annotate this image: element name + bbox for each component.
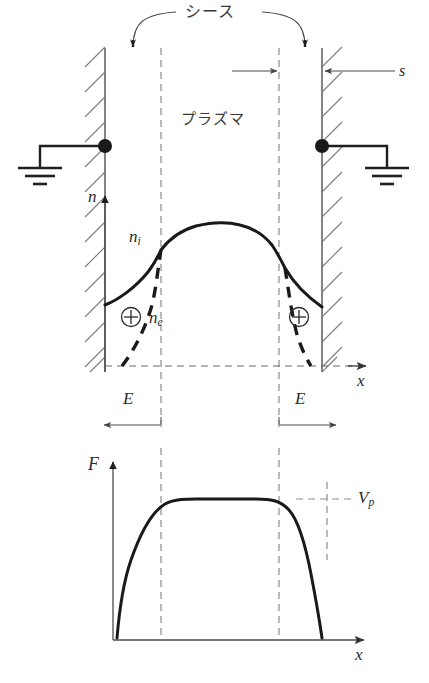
electric-field-right	[279, 417, 336, 425]
figure-canvas	[0, 0, 429, 683]
sheath-label: シース	[185, 4, 235, 20]
plasma-potential-subscript: p	[368, 496, 374, 509]
right-ground-connection	[315, 139, 409, 184]
electron-density-symbol: n	[149, 308, 158, 327]
ion-density-subscript: i	[138, 235, 141, 248]
left-wall	[85, 47, 105, 372]
plasma-potential-symbol: V	[358, 488, 368, 507]
plasma-sheath-figure: シース プラズマ s n ni ne x E E F Vp x	[0, 0, 429, 683]
sheath-boundary-lines	[161, 48, 279, 430]
potential-curve	[117, 499, 322, 638]
electron-density-label: ne	[149, 309, 163, 329]
positive-charge-marker-left	[122, 308, 141, 327]
density-x-axis-label: x	[357, 372, 365, 389]
ion-density-label: ni	[129, 228, 141, 248]
potential-x-axis-label: x	[355, 646, 363, 663]
field-label-left: E	[123, 390, 133, 407]
left-ground-connection	[18, 139, 112, 184]
positive-charge-marker-right	[290, 308, 309, 327]
right-wall	[322, 47, 342, 372]
plasma-potential-label: Vp	[358, 489, 374, 509]
plasma-label: プラズマ	[181, 112, 245, 127]
field-label-right: E	[295, 390, 305, 407]
density-axis-label: n	[88, 188, 97, 205]
sheath-width-label: s	[399, 63, 405, 79]
potential-sheath-boundary-lines	[161, 448, 279, 640]
electron-density-subscript: e	[158, 316, 163, 329]
potential-axis-label: F	[88, 455, 99, 473]
ion-density-symbol: n	[129, 227, 138, 246]
electric-field-left	[104, 417, 161, 425]
